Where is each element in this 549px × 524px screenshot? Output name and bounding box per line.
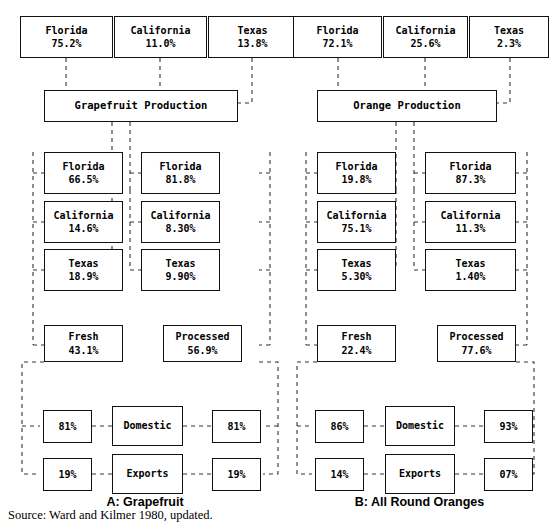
state-value: 66.5% (68, 173, 98, 186)
panel-a-fresh-state-california[interactable]: California 14.6% (44, 201, 123, 243)
state-value: 2.3% (497, 37, 521, 50)
panel-b-caption: B: All Round Oranges (290, 495, 549, 509)
state-name: Texas (237, 24, 267, 37)
state-name: California (150, 209, 210, 222)
panel-a-fresh-box[interactable]: Fresh 43.1% (44, 325, 123, 362)
panel-a-processed-box[interactable]: Processed 56.9% (163, 325, 242, 362)
b-link-texas-production (496, 58, 510, 103)
panel-a-production-state-florida[interactable]: Florida 75.2% (20, 16, 113, 58)
processed-label: Processed (449, 330, 503, 343)
state-name: Florida (449, 160, 491, 173)
a-fresh-to-channel-bus (22, 362, 44, 474)
panel-b-exports-label-box[interactable]: Exports (385, 454, 455, 494)
state-name: Texas (68, 257, 98, 270)
state-value: 11.0% (145, 37, 175, 50)
panel-b-exports-fresh-share[interactable]: 14% (315, 458, 364, 491)
panel-a-domestic-processed-share[interactable]: 81% (212, 410, 261, 443)
state-name: California (395, 24, 455, 37)
panel-b-fresh-box[interactable]: Fresh 22.4% (317, 325, 396, 362)
state-value: 75.2% (51, 37, 81, 50)
a-processed-to-channel-bus (259, 362, 278, 474)
state-value: 75.1% (341, 222, 371, 235)
state-value: 25.6% (410, 37, 440, 50)
source-note: Source: Ward and Kilmer 1980, updated. (8, 508, 213, 523)
state-name: California (326, 209, 386, 222)
share-value: 86% (330, 420, 348, 433)
panel-a-caption: A: Grapefruit (0, 495, 290, 509)
share-value: 07% (499, 468, 517, 481)
processed-label: Processed (175, 330, 229, 343)
panel-a-domestic-label-box[interactable]: Domestic (112, 406, 183, 446)
state-name: Florida (45, 24, 87, 37)
state-value: 87.3% (455, 173, 485, 186)
panel-b-fresh-state-california[interactable]: California 75.1% (317, 201, 396, 243)
panel-b-exports-processed-share[interactable]: 07% (484, 458, 533, 491)
panel-b-processed-box[interactable]: Processed 77.6% (437, 325, 516, 362)
panel-b-processed-state-california[interactable]: California 11.3% (425, 201, 516, 243)
state-value: 81.8% (165, 173, 195, 186)
panel-a-fresh-state-florida[interactable]: Florida 66.5% (44, 152, 123, 194)
state-name: Florida (335, 160, 377, 173)
panel-b-domestic-label-box[interactable]: Domestic (385, 406, 455, 446)
panel-b-domestic-processed-share[interactable]: 93% (484, 410, 533, 443)
panel-a-production-box[interactable]: Grapefruit Production (44, 90, 238, 122)
channel-label: Exports (126, 467, 168, 480)
fresh-value: 22.4% (341, 344, 371, 357)
state-value: 72.1% (322, 37, 352, 50)
state-name: Florida (62, 160, 104, 173)
fresh-label: Fresh (341, 330, 371, 343)
panel-b-production-state-california[interactable]: California 25.6% (383, 16, 468, 58)
panel-a-exports-label-box[interactable]: Exports (112, 454, 183, 494)
channel-label: Domestic (396, 419, 444, 432)
state-value: 9.90% (165, 270, 195, 283)
a-link-texas-production (237, 58, 252, 103)
processed-value: 77.6% (461, 344, 491, 357)
state-name: Texas (341, 257, 371, 270)
state-value: 11.3% (455, 222, 485, 235)
state-value: 13.8% (237, 37, 267, 50)
state-name: Texas (494, 24, 524, 37)
state-name: California (130, 24, 190, 37)
state-value: 14.6% (68, 222, 98, 235)
state-name: Florida (316, 24, 358, 37)
fresh-label: Fresh (68, 330, 98, 343)
share-value: 81% (227, 420, 245, 433)
production-label: Grapefruit Production (75, 99, 208, 113)
state-name: Florida (159, 160, 201, 173)
panel-a-production-state-texas[interactable]: Texas 13.8% (208, 16, 297, 58)
panel-b-production-box[interactable]: Orange Production (317, 90, 497, 122)
share-value: 19% (58, 468, 76, 481)
panel-a-processed-state-florida[interactable]: Florida 81.8% (141, 152, 220, 194)
channel-label: Exports (399, 467, 441, 480)
fresh-value: 43.1% (68, 344, 98, 357)
share-value: 19% (227, 468, 245, 481)
panel-a-exports-processed-share[interactable]: 19% (212, 458, 261, 491)
panel-b-processed-state-texas[interactable]: Texas 1.40% (425, 249, 516, 291)
processed-value: 56.9% (187, 344, 217, 357)
panel-a-exports-fresh-share[interactable]: 19% (43, 458, 92, 491)
state-name: Texas (165, 257, 195, 270)
panel-a-domestic-fresh-share[interactable]: 81% (43, 410, 92, 443)
panel-b-production-state-texas[interactable]: Texas 2.3% (469, 16, 549, 58)
figure-canvas: Florida 75.2% California 11.0% Texas 13.… (0, 0, 549, 524)
share-value: 93% (499, 420, 517, 433)
production-label: Orange Production (353, 99, 460, 113)
panel-a-processed-state-california[interactable]: California 8.30% (141, 201, 220, 243)
panel-b-processed-state-florida[interactable]: Florida 87.3% (425, 152, 516, 194)
panel-b-domestic-fresh-share[interactable]: 86% (315, 410, 364, 443)
panel-a-production-state-california[interactable]: California 11.0% (114, 16, 207, 58)
state-name: California (440, 209, 500, 222)
state-value: 8.30% (165, 222, 195, 235)
panel-b-fresh-state-florida[interactable]: Florida 19.8% (317, 152, 396, 194)
share-value: 14% (330, 468, 348, 481)
state-name: Texas (455, 257, 485, 270)
state-value: 5.30% (341, 270, 371, 283)
state-value: 19.8% (341, 173, 371, 186)
panel-a-processed-state-texas[interactable]: Texas 9.90% (141, 249, 220, 291)
panel-a-fresh-state-texas[interactable]: Texas 18.9% (44, 249, 123, 291)
channel-label: Domestic (123, 419, 171, 432)
panel-b-production-state-florida[interactable]: Florida 72.1% (293, 16, 382, 58)
state-value: 1.40% (455, 270, 485, 283)
panel-b-fresh-state-texas[interactable]: Texas 5.30% (317, 249, 396, 291)
state-value: 18.9% (68, 270, 98, 283)
